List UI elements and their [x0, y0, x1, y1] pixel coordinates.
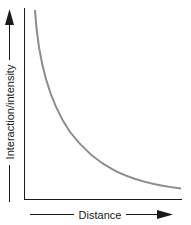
decay-curve [35, 10, 181, 189]
up-arrow-icon [5, 9, 14, 25]
y-axis-label: Interaction/intensity [4, 64, 16, 159]
right-arrow-icon [157, 210, 173, 219]
distance-decay-diagram: Interaction/intensity Distance [0, 0, 191, 225]
x-axis-label: Distance [79, 209, 122, 221]
